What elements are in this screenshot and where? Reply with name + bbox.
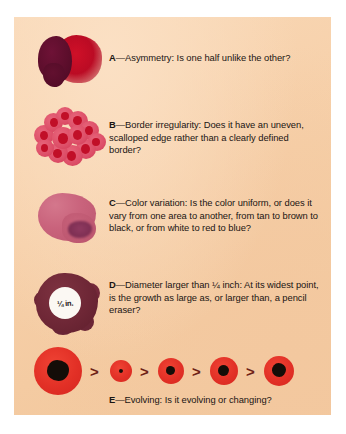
evolving-stage-1-core <box>47 360 69 381</box>
criterion-row-diameter: ¼ in. D—Diameter larger than ¼ inch: At … <box>14 267 331 343</box>
border-spot <box>58 133 68 144</box>
border-spot <box>73 116 82 125</box>
evolving-stage-2-core <box>119 369 123 373</box>
criterion-text-diameter: D—Diameter larger than ¼ inch: At its wi… <box>109 279 323 317</box>
evolving-stage-4-core <box>218 365 229 376</box>
criterion-row-color: C—Color variation: Is the color uniform,… <box>14 187 331 259</box>
diameter-mole-illustration: ¼ in. <box>32 269 110 341</box>
criterion-dash-b: — <box>116 119 125 130</box>
chevron-separator-icon: > <box>90 364 99 379</box>
criterion-letter-c: C <box>109 197 116 208</box>
criterion-row-asymmetry: A—Asymmetry: Is one half unlike the othe… <box>14 25 331 101</box>
color-variation-mole-illustration <box>32 187 108 253</box>
border-spot <box>53 149 62 158</box>
criterion-letter-d: D <box>109 279 116 290</box>
border-spot <box>67 151 76 161</box>
border-spot <box>61 112 69 120</box>
border-irregularity-mole-illustration <box>30 105 110 175</box>
criterion-text-asymmetry: A—Asymmetry: Is one half unlike the othe… <box>109 52 324 65</box>
criterion-text-color: C—Color variation: Is the color uniform,… <box>109 197 325 235</box>
asymmetry-mole-illustration <box>32 25 108 101</box>
diameter-measure-label: ¼ in. <box>57 298 74 308</box>
criterion-dash-e: — <box>115 394 124 405</box>
border-spot <box>40 131 48 140</box>
criterion-row-border: B—Border irregularity: Does it have an u… <box>14 103 331 179</box>
criterion-body-e: Evolving: Is it evolving or changing? <box>125 394 272 405</box>
border-spot <box>92 138 100 146</box>
chevron-separator-icon: > <box>192 364 201 379</box>
criterion-letter-b: B <box>109 119 116 130</box>
criterion-text-border: B—Border irregularity: Does it have an u… <box>109 119 321 157</box>
border-spot <box>41 144 48 152</box>
evolving-stage-3-core <box>166 366 175 375</box>
chevron-separator-icon: > <box>140 364 149 379</box>
criterion-dash-c: — <box>116 197 125 208</box>
criterion-dash-d: — <box>116 279 125 290</box>
diameter-measure-circle: ¼ in. <box>49 287 81 319</box>
criterion-body-a: Asymmetry: Is one half unlike the other? <box>125 52 290 63</box>
criterion-body-d: Diameter larger than ¼ inch: At its wide… <box>109 279 319 315</box>
asymmetry-dark-tail <box>43 63 65 87</box>
criterion-row-evolving: > > > > E—Evolving: Is it evolving or ch… <box>14 347 331 411</box>
border-spot <box>81 144 90 154</box>
criterion-letter-a: A <box>109 52 116 63</box>
criterion-text-evolving: E—Evolving: Is it evolving or changing? <box>109 394 319 407</box>
border-spot <box>73 130 82 140</box>
criterion-body-c: Color variation: Is the color uniform, o… <box>109 197 318 233</box>
illustration-panel: A—Asymmetry: Is one half unlike the othe… <box>14 17 331 415</box>
evolving-mole-sequence-illustration: > > > > <box>30 347 320 395</box>
criterion-body-b: Border irregularity: Does it have an une… <box>109 119 304 155</box>
chevron-separator-icon: > <box>246 364 255 379</box>
border-spot <box>85 126 93 135</box>
criterion-dash-a: — <box>116 52 125 63</box>
evolving-stage-5-core <box>272 363 286 377</box>
border-spot <box>50 118 58 127</box>
